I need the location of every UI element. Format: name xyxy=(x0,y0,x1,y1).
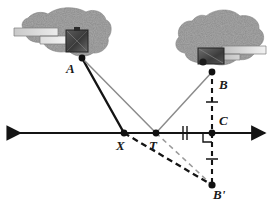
point-label-Bprime: B' xyxy=(213,188,225,201)
building-left-roof-detail xyxy=(74,27,80,31)
landmass-left xyxy=(14,8,111,56)
road-left xyxy=(14,28,66,44)
point-B xyxy=(209,69,216,76)
geometry-diagram-canvas xyxy=(0,0,279,210)
point-C xyxy=(209,130,216,137)
geometry-figure: A B C X T B' xyxy=(0,0,279,210)
landmass-right xyxy=(176,10,266,66)
point-label-T: T xyxy=(149,139,157,152)
segment-X-to-Bprime xyxy=(124,133,212,185)
point-T xyxy=(153,130,160,137)
point-label-C: C xyxy=(219,114,228,127)
point-X xyxy=(121,130,128,137)
segment-T-to-B xyxy=(156,72,212,133)
point-label-A: A xyxy=(66,62,75,75)
building-right-dot xyxy=(199,58,206,65)
point-A xyxy=(79,55,86,62)
point-label-X: X xyxy=(116,139,125,152)
point-label-B: B xyxy=(219,78,228,91)
segment-A-to-X xyxy=(82,58,124,133)
